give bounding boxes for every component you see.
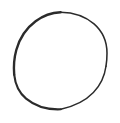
canvas-background [0, 0, 120, 123]
circle-drawing [0, 0, 120, 123]
figure-canvas: Circle outline A single hand-drawn circl… [0, 0, 120, 123]
